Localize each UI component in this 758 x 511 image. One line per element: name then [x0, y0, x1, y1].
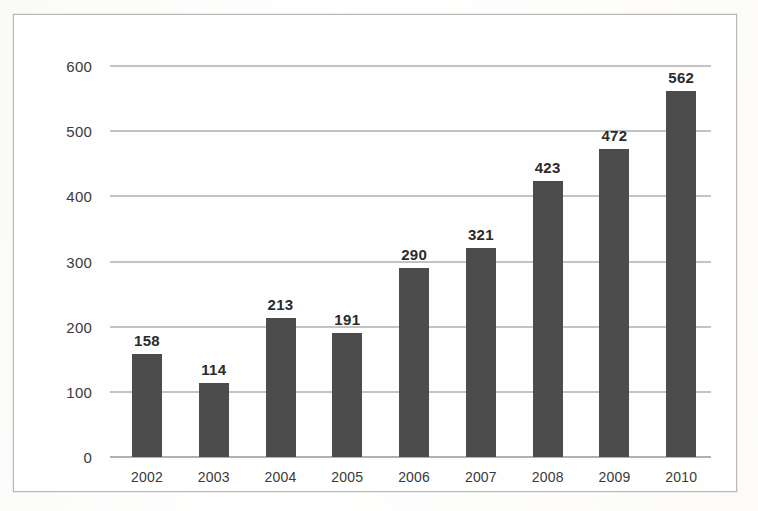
y-tick-label: 600 — [66, 58, 92, 75]
x-tick-label: 2003 — [198, 469, 230, 485]
y-tick-label: 200 — [66, 318, 92, 335]
bar[interactable]: 290 — [399, 268, 429, 457]
bar-value-label: 191 — [334, 311, 360, 328]
x-tick-label: 2008 — [532, 469, 564, 485]
figure-frame: 0100200300400500600 15820021142003213200… — [13, 14, 737, 492]
bar-category-2006: 2902006 — [399, 66, 429, 457]
bar[interactable]: 472 — [599, 149, 629, 457]
bar[interactable]: 562 — [666, 91, 696, 457]
bar-category-2008: 4232008 — [533, 66, 563, 457]
bar[interactable]: 158 — [132, 354, 162, 457]
chart-page: 0100200300400500600 15820021142003213200… — [0, 0, 758, 511]
x-tick-label: 2007 — [465, 469, 497, 485]
bar[interactable]: 321 — [466, 248, 496, 457]
bar-category-2007: 3212007 — [466, 66, 496, 457]
y-tick-label: 400 — [66, 188, 92, 205]
x-tick-label: 2006 — [398, 469, 430, 485]
plot-area: 0100200300400500600 15820021142003213200… — [110, 66, 711, 457]
x-tick-label: 2002 — [131, 469, 163, 485]
bar[interactable]: 191 — [332, 333, 362, 457]
x-tick-label: 2004 — [265, 469, 297, 485]
bar-value-label: 423 — [535, 159, 561, 176]
bar[interactable]: 114 — [199, 383, 229, 457]
bar-category-2004: 2132004 — [266, 66, 296, 457]
y-tick-label: 300 — [66, 253, 92, 270]
x-tick-label: 2005 — [331, 469, 363, 485]
y-tick-label: 100 — [66, 383, 92, 400]
bar-category-2003: 1142003 — [199, 66, 229, 457]
bar-value-label: 213 — [268, 296, 294, 313]
y-tick-label: 0 — [83, 449, 92, 466]
bar-category-2010: 5622010 — [666, 66, 696, 457]
bar[interactable]: 213 — [266, 318, 296, 457]
bar-value-label: 321 — [468, 226, 494, 243]
bar[interactable]: 423 — [533, 181, 563, 457]
y-tick-label: 500 — [66, 123, 92, 140]
bar-value-label: 114 — [201, 361, 226, 378]
bar-category-2002: 1582002 — [132, 66, 162, 457]
bar-category-2005: 1912005 — [332, 66, 362, 457]
bar-value-label: 290 — [401, 246, 427, 263]
bar-category-2009: 4722009 — [599, 66, 629, 457]
x-tick-label: 2009 — [598, 469, 630, 485]
bar-value-label: 158 — [134, 332, 160, 349]
bar-value-label: 472 — [601, 127, 627, 144]
bar-value-label: 562 — [668, 69, 694, 86]
x-tick-label: 2010 — [665, 469, 697, 485]
